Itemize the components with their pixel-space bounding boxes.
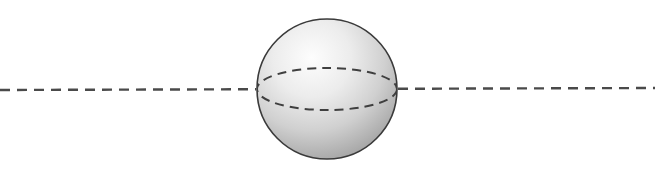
axis-line-left <box>0 89 256 90</box>
sphere-diagram <box>0 0 655 173</box>
figure-canvas <box>0 0 655 173</box>
axis-line-right <box>398 88 655 89</box>
sphere-body <box>257 19 397 159</box>
